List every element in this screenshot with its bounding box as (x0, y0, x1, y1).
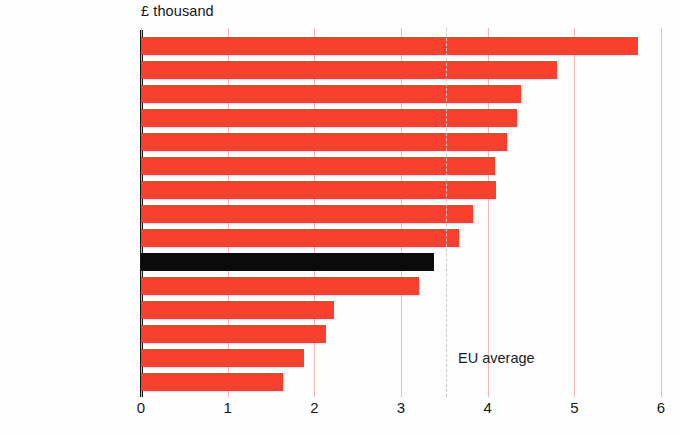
bar-row: Irish Republic (141, 322, 661, 346)
bar (141, 61, 557, 79)
x-tick-2: 2 (310, 399, 318, 416)
bar (141, 325, 326, 343)
bar (141, 349, 304, 367)
bar-row: Denmark (141, 58, 661, 82)
bar-row: United Kingdom (141, 250, 661, 274)
x-axis-tick-labels: 0123456 (141, 399, 661, 429)
bar-row: Greece (141, 346, 661, 370)
bar-row: Austria (141, 130, 661, 154)
bar-row: Belgium (141, 154, 661, 178)
bar (141, 37, 638, 55)
bar (141, 157, 495, 175)
bar (141, 205, 473, 223)
x-tick-0: 0 (137, 399, 145, 416)
bar-row: Netherlands (141, 178, 661, 202)
bar (141, 85, 521, 103)
bar (141, 253, 434, 271)
bar (141, 301, 334, 319)
bar-row: Sweden (141, 106, 661, 130)
eu-average-line (446, 28, 447, 397)
x-tick-4: 4 (483, 399, 491, 416)
bar-row: Portugal (141, 370, 661, 394)
x-tick-5: 5 (570, 399, 578, 416)
chart-unit-title: £ thousand (141, 3, 214, 19)
bar-series: LuxembourgDenmarkGermanySwedenAustriaBel… (141, 28, 661, 397)
bar-row: Spain (141, 298, 661, 322)
bar (141, 277, 419, 295)
bar (141, 181, 496, 199)
gridline-6 (661, 28, 662, 397)
x-tick-1: 1 (223, 399, 231, 416)
bar-row: France (141, 202, 661, 226)
x-tick-3: 3 (397, 399, 405, 416)
eu-average-label: EU average (458, 350, 535, 366)
bar (141, 109, 517, 127)
x-tick-6: 6 (657, 399, 665, 416)
plot-area: LuxembourgDenmarkGermanySwedenAustriaBel… (141, 28, 661, 397)
bar-row: Italy (141, 274, 661, 298)
bar (141, 133, 507, 151)
bar-row: Germany (141, 82, 661, 106)
bar (141, 373, 283, 391)
bar-row: Luxembourg (141, 34, 661, 58)
bar-row: Finland (141, 226, 661, 250)
bar (141, 229, 459, 247)
bar-chart: £ thousand LuxembourgDenmarkGermanySwede… (0, 0, 680, 435)
